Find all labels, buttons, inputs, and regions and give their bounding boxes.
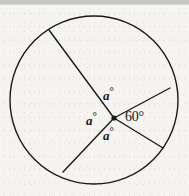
circle-outline — [10, 16, 178, 184]
circle-diagram — [0, 0, 189, 196]
center-vertex-dot — [111, 115, 116, 120]
circle-angle-figure: a° a° a° 60° — [0, 0, 189, 196]
radius-lower-left — [63, 118, 114, 172]
radius-upper-left — [49, 30, 114, 118]
radius-lower-right — [114, 118, 163, 148]
radius-right — [114, 88, 170, 118]
